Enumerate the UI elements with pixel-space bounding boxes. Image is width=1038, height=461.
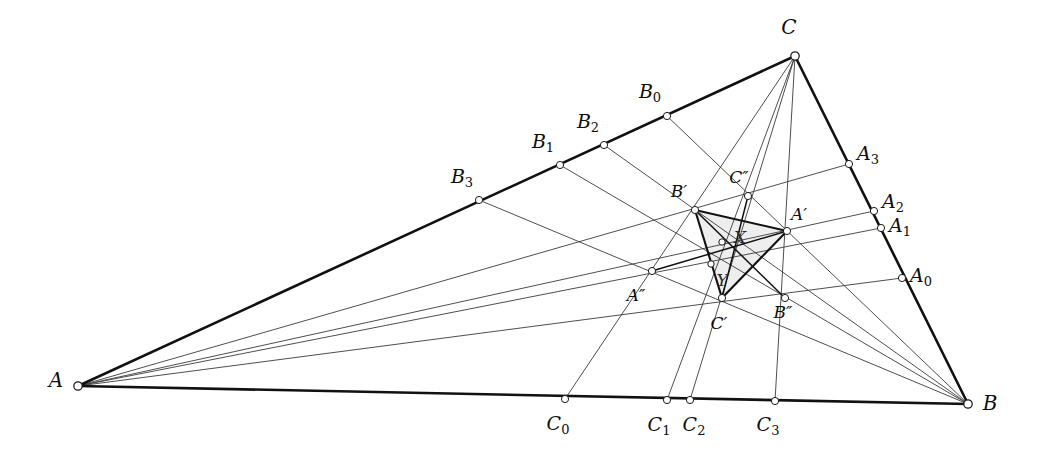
label-X: X [732,227,747,247]
node-A [74,382,82,390]
label-C3: C3 [757,413,780,438]
label-C1-subscript: 1 [662,423,670,438]
vertex-nodes [74,52,972,408]
cevian-lines [78,56,968,404]
label-B3: B3 [450,165,473,190]
diagram-canvas: ABCA0A1A2A3B0B1B2B3C0C1C2C3A′B′C′A″B″C″X… [0,0,1038,461]
main-triangle-edges [78,56,968,404]
node-Cdprime [744,192,751,199]
segment-A-B [78,386,968,404]
node-B2 [600,141,607,148]
label-B2: B2 [576,110,599,135]
label-B0: B0 [638,80,661,105]
node-C2 [686,396,693,403]
node-Cprime [718,294,725,301]
node-Bprime [691,206,698,213]
node-Y [708,261,714,267]
label-A1: A1 [887,214,911,239]
node-C0 [561,395,568,402]
label-A1-subscript: 1 [903,224,911,239]
node-C [791,52,799,60]
geometry-figure: ABCA0A1A2A3B0B1B2B3C0C1C2C3A′B′C′A″B″C″X… [0,0,1038,461]
node-A0 [898,274,905,281]
label-A0-subscript: 0 [924,274,932,289]
segment-B-B1 [560,165,968,404]
label-B0-subscript: 0 [653,90,661,105]
label-C0: C0 [547,412,570,437]
node-B3 [475,196,482,203]
segment-A-A0 [78,278,902,386]
label-C: C [781,15,796,39]
label-C2-subscript: 2 [697,423,705,438]
label-Cdprime: C″ [729,167,749,187]
label-B1: B1 [531,130,554,155]
label-A3: A3 [855,142,879,167]
node-C3 [771,397,778,404]
label-A: A [47,368,63,392]
label-Bdprime: B″ [773,302,793,322]
label-B: B [982,391,998,415]
node-B [964,400,972,408]
label-A2: A2 [880,190,904,215]
node-B0 [663,112,670,119]
node-A2 [870,207,877,214]
label-C3-subscript: 3 [771,423,779,438]
node-C1 [663,396,670,403]
label-Cprime: C′ [711,313,728,333]
label-C0-subscript: 0 [561,422,569,437]
node-Adprime [648,267,655,274]
node-A1 [877,224,884,231]
label-A2-subscript: 2 [896,200,904,215]
label-B2-subscript: 2 [591,120,599,135]
label-Adprime: A″ [625,285,646,305]
label-C1: C1 [648,413,671,438]
label-Bprime: B′ [670,181,687,201]
node-A3 [845,160,852,167]
label-A3-subscript: 3 [871,152,879,167]
label-B1-subscript: 1 [546,140,554,155]
segment-A-A1 [78,228,881,386]
node-X [719,239,725,245]
label-A0: A0 [908,264,932,289]
segment-A-A2 [78,211,874,386]
label-Aprime: A′ [789,204,807,224]
point-labels: ABCA0A1A2A3B0B1B2B3C0C1C2C3A′B′C′A″B″C″X… [47,15,998,438]
label-Y: Y [716,270,729,290]
segment-C-A [78,56,795,386]
node-B1 [556,161,563,168]
label-C2: C2 [683,413,706,438]
label-B3-subscript: 3 [465,175,473,190]
node-Aprime [783,227,790,234]
